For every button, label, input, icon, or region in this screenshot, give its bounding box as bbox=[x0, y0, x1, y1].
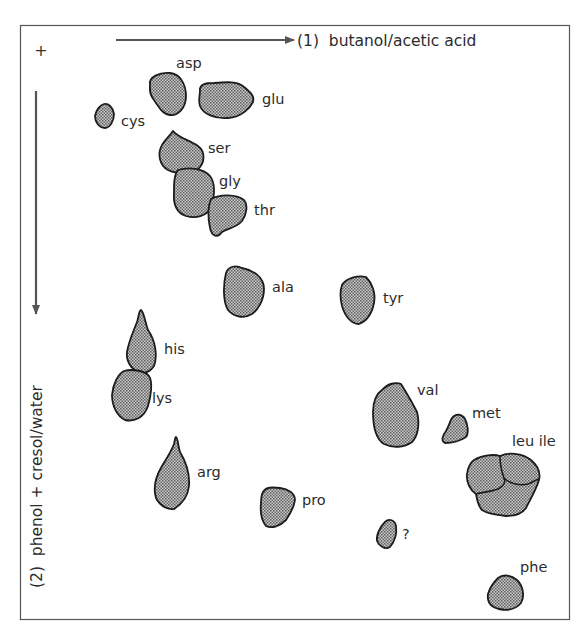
spot-pro: pro bbox=[261, 487, 326, 527]
spot-label-met: met bbox=[472, 405, 501, 421]
spot-label-ala: ala bbox=[272, 279, 294, 295]
spot-label-his: his bbox=[164, 341, 185, 357]
spot-label-pro: pro bbox=[302, 492, 326, 508]
spot-label-thr: thr bbox=[254, 202, 275, 218]
spot-thr: thr bbox=[209, 195, 275, 235]
spot-his: his bbox=[127, 310, 185, 373]
spot-lys: lys bbox=[112, 370, 172, 420]
spot-tyr: tyr bbox=[341, 276, 404, 324]
spot-ser: ser bbox=[159, 131, 230, 173]
spot-arg: arg bbox=[155, 437, 221, 509]
spot-cys: cys bbox=[95, 104, 145, 129]
spot-label-unknown: ? bbox=[402, 526, 410, 542]
origin-marker: + bbox=[34, 41, 47, 60]
spot-label-leu-ile: leu ile bbox=[512, 433, 556, 449]
spot-val: val bbox=[373, 382, 439, 447]
spot-label-val: val bbox=[417, 382, 439, 398]
spot-unknown: ? bbox=[377, 520, 410, 548]
spot-ala: ala bbox=[224, 266, 294, 316]
axis2-label: (2) phenol + cresol/water bbox=[28, 385, 46, 588]
spot-label-ser: ser bbox=[208, 140, 230, 156]
spot-label-glu: glu bbox=[262, 91, 284, 107]
spot-label-arg: arg bbox=[197, 464, 221, 480]
axis1-label: (1) butanol/acetic acid bbox=[297, 32, 476, 50]
spot-label-tyr: tyr bbox=[383, 290, 403, 306]
spot-leu-ile: leu ile bbox=[467, 433, 556, 516]
spot-glu: glu bbox=[199, 82, 284, 118]
spot-phe: phe bbox=[488, 559, 548, 610]
spot-asp: asp bbox=[150, 55, 202, 115]
spot-label-phe: phe bbox=[520, 559, 547, 575]
spot-label-gly: gly bbox=[219, 173, 241, 189]
spot-met: met bbox=[442, 405, 501, 443]
spot-label-asp: asp bbox=[176, 55, 202, 71]
spot-label-cys: cys bbox=[121, 113, 145, 129]
chromatogram-figure: + (1) butanol/acetic acid (2) phenol + c… bbox=[0, 0, 587, 634]
spot-label-lys: lys bbox=[152, 390, 172, 406]
